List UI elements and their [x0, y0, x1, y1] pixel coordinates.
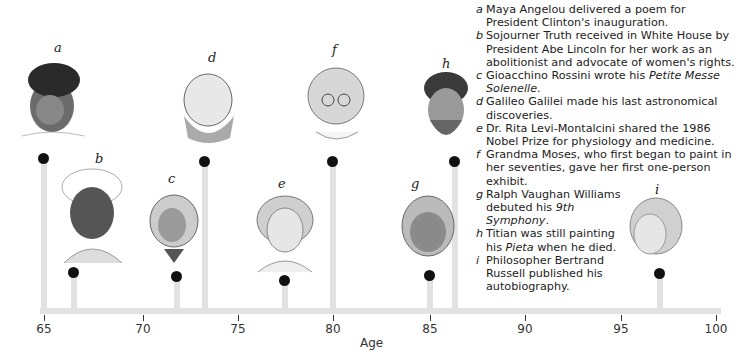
- axis-tick-label-75: 75: [230, 322, 245, 336]
- portrait-grandma-moses: [302, 64, 370, 146]
- portrait-ralph-vaughan-williams: [394, 194, 460, 269]
- legend-item-h: hTitian was still painting his Pieta whe…: [476, 227, 626, 253]
- marker-dot-h: [449, 156, 460, 167]
- legend: aMaya Angelou delivered a poem for Presi…: [476, 3, 741, 293]
- age-achievement-timeline: a b c d e f g h i: [0, 0, 741, 355]
- legend-item-g: gRalph Vaughan Williams debuted his 9th …: [476, 188, 626, 228]
- marker-letter-h: h: [442, 56, 450, 71]
- marker-dot-b: [68, 267, 79, 278]
- axis-tick-70: [143, 315, 144, 321]
- portrait-titian: [420, 70, 470, 150]
- legend-item-i: iPhilosopher Bertrand Russell published …: [476, 254, 626, 294]
- timeline-baseline: [40, 308, 721, 314]
- axis-tick-label-80: 80: [325, 322, 340, 336]
- marker-dot-g: [424, 270, 435, 281]
- portrait-galileo-galilei: [170, 68, 250, 148]
- marker-letter-c: c: [168, 171, 175, 186]
- legend-item-a: aMaya Angelou delivered a poem for Presi…: [476, 3, 741, 29]
- marker-dot-a: [38, 153, 49, 164]
- marker-letter-b: b: [95, 151, 103, 166]
- axis-tick-85: [430, 315, 431, 321]
- marker-dot-d: [199, 156, 210, 167]
- legend-item-f: fGrandma Moses, who first began to paint…: [476, 148, 741, 188]
- x-axis-label: Age: [360, 336, 383, 350]
- marker-letter-a: a: [54, 40, 62, 55]
- legend-item-b: bSojourner Truth received in White House…: [476, 29, 741, 69]
- axis-tick-75: [238, 315, 239, 321]
- axis-tick-100: [716, 315, 717, 321]
- stem-d: [202, 163, 208, 310]
- marker-dot-f: [327, 156, 338, 167]
- portrait-gioacchino-rossini: [146, 191, 202, 266]
- axis-tick-label-70: 70: [135, 322, 150, 336]
- axis-tick-95: [621, 315, 622, 321]
- axis-tick-90: [525, 315, 526, 321]
- marker-letter-d: d: [208, 50, 216, 65]
- marker-letter-g: g: [411, 176, 419, 191]
- marker-dot-e: [279, 275, 290, 286]
- portrait-maya-angelou: [12, 58, 92, 148]
- stem-b: [71, 274, 77, 310]
- portrait-rita-levi-montalcini: [252, 192, 318, 274]
- axis-tick-65: [44, 315, 45, 321]
- axis-tick-label-90: 90: [517, 322, 532, 336]
- stem-a: [41, 160, 47, 310]
- axis-tick-label-95: 95: [613, 322, 628, 336]
- axis-tick-label-100: 100: [705, 322, 728, 336]
- axis-tick-label-65: 65: [36, 322, 51, 336]
- stem-g: [427, 277, 433, 310]
- legend-item-d: dGalileo Galilei made his last astronomi…: [476, 95, 741, 121]
- marker-letter-e: e: [278, 176, 286, 191]
- stem-c: [174, 278, 180, 310]
- stem-f: [330, 163, 336, 310]
- marker-dot-c: [171, 271, 182, 282]
- axis-tick-80: [333, 315, 334, 321]
- legend-item-e: eDr. Rita Levi-Montalcini shared the 198…: [476, 122, 741, 148]
- portrait-sojourner-truth: [56, 165, 128, 265]
- legend-item-c: cGioacchino Rossini wrote his Petite Mes…: [476, 69, 741, 95]
- marker-letter-f: f: [332, 42, 337, 57]
- axis-tick-label-85: 85: [422, 322, 437, 336]
- stem-e: [282, 282, 288, 310]
